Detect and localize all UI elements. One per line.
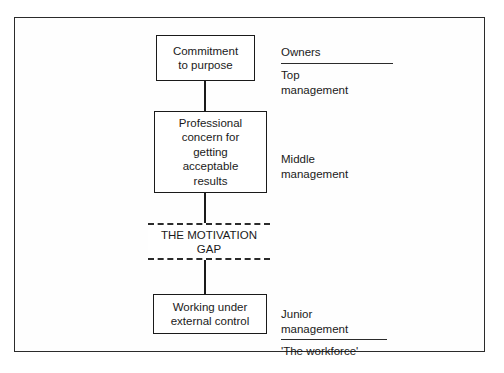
node-professional-concern: Professional concern for getting accepta… (154, 111, 267, 193)
side-label-middle-management: Middle management (281, 152, 348, 181)
motivation-gap-band: THE MOTIVATION GAP (148, 223, 270, 260)
diagram-frame: Commitment to purpose Professional conce… (14, 17, 485, 352)
node-commitment-to-purpose: Commitment to purpose (156, 35, 255, 81)
side-label-top-management: Top management (281, 68, 348, 97)
node-working-label: Working under external control (165, 300, 256, 329)
connector-commitment-to-professional (204, 81, 206, 111)
side-label-owners: Owners (281, 45, 321, 60)
node-commitment-label: Commitment to purpose (167, 44, 244, 73)
divider-under-junior-management (281, 339, 387, 340)
divider-under-owners (281, 63, 393, 64)
node-working-under-external-control: Working under external control (153, 294, 267, 334)
side-label-junior-management: Junior management (281, 307, 348, 336)
motivation-gap-label: THE MOTIVATION GAP (148, 225, 270, 258)
dashed-rule-bottom (148, 258, 270, 260)
connector-professional-to-gap (204, 193, 206, 227)
node-professional-label: Professional concern for getting accepta… (173, 116, 248, 189)
connector-gap-to-working (204, 259, 206, 294)
side-label-workforce: 'The workforce' (281, 344, 358, 359)
